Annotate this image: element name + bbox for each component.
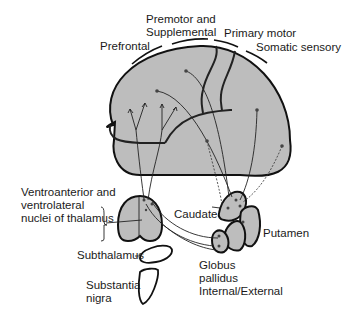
substantia-nigra-label-line2: nigra xyxy=(86,292,112,305)
globus-pallidus-internal-shape xyxy=(212,230,229,252)
premotor-label-line2: Supplemental xyxy=(146,26,216,39)
primary-motor-arc xyxy=(214,40,238,47)
primary-motor-label: Primary motor xyxy=(224,27,296,40)
thalamus-label-line3: nuclei of thalamus xyxy=(21,212,114,225)
globus-pallidus-label-line1: Globus xyxy=(199,259,235,272)
thalamus-label-line2: ventrolateral xyxy=(21,199,84,212)
subthalamus-label: Subthalamus xyxy=(77,249,144,262)
prefrontal-label: Prefrontal xyxy=(100,40,150,53)
substantia-nigra-label-line1: Substantia xyxy=(86,279,140,292)
substantia-nigra-shape xyxy=(139,269,158,304)
premotor-label-line1: Premotor and xyxy=(146,13,216,26)
globus-pallidus-label-line2: pallidus xyxy=(199,272,238,285)
putamen-label: Putamen xyxy=(263,227,309,240)
premotor-arc xyxy=(172,39,208,44)
thalamus-shape xyxy=(118,196,162,241)
somatic-sensory-label: Somatic sensory xyxy=(256,41,341,54)
cortex-shape xyxy=(107,46,291,176)
globus-pallidus-label-line3: Internal/External xyxy=(199,285,283,298)
caudate-label: Caudate xyxy=(174,208,217,221)
subthalamus-shape xyxy=(140,246,172,263)
thalamus-label-line1: Ventroanterior and xyxy=(21,186,116,199)
